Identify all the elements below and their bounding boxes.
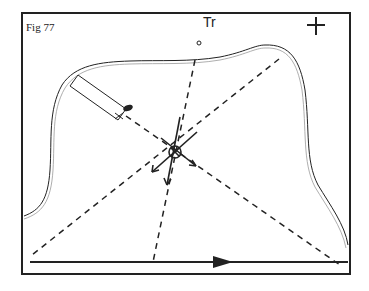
plus-marker-icon <box>307 17 325 35</box>
boat-icon <box>70 75 134 120</box>
figure-frame <box>22 13 350 274</box>
direction-arrow-icon <box>30 256 348 268</box>
coastline <box>24 45 348 248</box>
diagram-canvas <box>0 0 369 291</box>
landmark-point-icon <box>197 41 201 45</box>
figure-label: Fig 77 <box>26 21 54 33</box>
position-marker-icon <box>152 117 197 185</box>
landmark-label: Tr <box>203 14 216 30</box>
